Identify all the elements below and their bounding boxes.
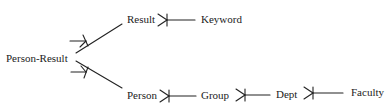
edge-result-to-keyword <box>158 14 195 26</box>
entity-keyword: Keyword <box>201 13 242 25</box>
edge-dept-to-faculty <box>304 87 343 99</box>
edge-person-result-to-result <box>70 24 122 53</box>
edge-group-to-dept <box>236 89 270 101</box>
entity-faculty: Faculty <box>351 86 384 98</box>
entity-dept: Dept <box>276 88 297 100</box>
entity-result: Result <box>127 13 155 25</box>
edge-person-result-to-person <box>71 61 122 88</box>
entity-person: Person <box>127 89 157 101</box>
entity-group: Group <box>201 89 229 101</box>
entity-person-result: Person-Result <box>6 52 68 64</box>
er-diagram: Person-Result Result Keyword Person Grou… <box>0 0 390 112</box>
edge-person-to-group <box>160 90 196 102</box>
